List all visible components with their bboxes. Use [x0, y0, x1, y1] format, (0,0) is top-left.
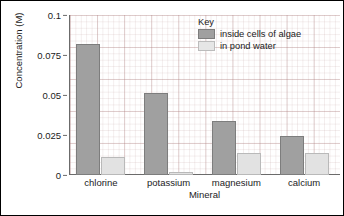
bar-calcium-pond-water — [305, 153, 329, 175]
bar-calcium-algae — [280, 136, 304, 175]
bar-chlorine-pond-water — [101, 157, 125, 175]
y-tick-label: 0 — [56, 170, 67, 181]
bar-potassium-algae — [144, 93, 168, 175]
y-tick-label: 0.05 — [43, 90, 68, 101]
bar-potassium-pond-water — [169, 172, 193, 175]
y-tick-label: 0.1 — [48, 10, 67, 21]
bar-chlorine-algae — [76, 44, 100, 175]
y-tick-label: 0.025 — [37, 130, 67, 141]
bar-magnesium-pond-water — [237, 153, 261, 175]
legend: Key inside cells of algae in pond water — [198, 17, 301, 53]
y-tick-label: 0.075 — [37, 50, 67, 61]
legend-label-algae: inside cells of algae — [220, 29, 301, 39]
x-tick-label-calcium: calcium — [288, 177, 320, 188]
legend-title: Key — [198, 17, 301, 27]
y-axis-title: Concentration (M) — [13, 0, 24, 116]
bar-magnesium-algae — [212, 121, 236, 175]
x-axis-title: Mineral — [69, 189, 340, 200]
legend-swatch-pond-water-icon — [198, 41, 215, 51]
x-tick-label-chlorine: chlorine — [84, 177, 117, 188]
legend-item-algae: inside cells of algae — [198, 29, 301, 39]
x-tick-label-potassium: potassium — [147, 177, 190, 188]
legend-label-pond-water: in pond water — [220, 41, 276, 51]
legend-item-pond-water: in pond water — [198, 41, 301, 51]
legend-swatch-algae-icon — [198, 29, 215, 39]
chart-figure: Concentration (M) 00.0250.050.0750.1 chl… — [0, 0, 344, 216]
x-tick-label-magnesium: magnesium — [212, 177, 261, 188]
